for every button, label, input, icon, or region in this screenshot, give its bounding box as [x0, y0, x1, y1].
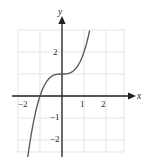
coordinate-plane — [0, 0, 146, 157]
x-tick-label-1: 1 — [80, 100, 85, 109]
x-tick-label-2: 2 — [101, 100, 106, 109]
grid-lines — [18, 30, 124, 152]
y-tick-label-minus1: −1 — [50, 113, 60, 122]
x-axis — [12, 92, 136, 99]
y-axis-label: y — [58, 8, 62, 18]
graph-figure: y x −2 1 2 2 −1 −2 — [0, 0, 146, 157]
y-tick-label-minus2: −2 — [50, 135, 60, 144]
x-tick-label-minus2: −2 — [18, 100, 28, 109]
y-tick-label-2: 2 — [53, 48, 58, 57]
x-axis-label: x — [137, 92, 141, 102]
